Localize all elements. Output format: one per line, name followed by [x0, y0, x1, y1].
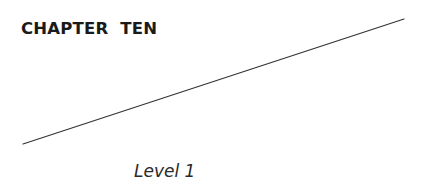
level-label: Level 1 [134, 161, 195, 181]
diagonal-rule-line [0, 0, 421, 190]
